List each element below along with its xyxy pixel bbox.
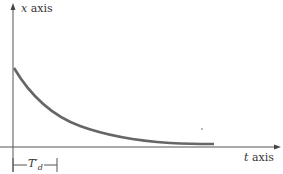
decay-curve xyxy=(14,68,214,144)
time-constant-label: T′d xyxy=(28,157,43,172)
y-axis-var: x xyxy=(21,2,27,15)
tc-subscript: d xyxy=(38,163,43,172)
y-axis-arrow-icon xyxy=(11,3,16,10)
x-axis-word: axis xyxy=(252,151,274,164)
y-axis-word: axis xyxy=(31,2,53,15)
x-axis-label: t axis xyxy=(244,151,274,164)
x-axis-arrow-icon xyxy=(274,145,281,150)
y-axis-label: x axis xyxy=(21,2,53,15)
stray-dot xyxy=(201,128,203,130)
decay-diagram xyxy=(0,0,283,174)
x-axis-var: t xyxy=(244,151,248,164)
